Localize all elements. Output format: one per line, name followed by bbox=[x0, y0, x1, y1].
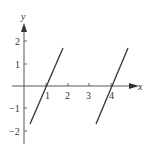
y-tick-label: 1 bbox=[15, 59, 20, 70]
chart: x y 1 2 3 4 2 1 −1 −2 bbox=[0, 0, 148, 148]
y-axis-arrow-icon bbox=[21, 23, 27, 32]
y-tick-label: −2 bbox=[9, 126, 20, 137]
plot-area: x y 1 2 3 4 2 1 −1 −2 bbox=[0, 0, 148, 148]
y-tick-label: 2 bbox=[15, 36, 20, 47]
y-axis-label: y bbox=[20, 11, 26, 22]
x-tick-label: 1 bbox=[45, 90, 50, 101]
x-tick-label: 3 bbox=[86, 90, 91, 101]
x-axis-label: x bbox=[137, 81, 143, 92]
y-tick-label: −1 bbox=[9, 103, 20, 114]
x-tick-label: 2 bbox=[65, 90, 70, 101]
